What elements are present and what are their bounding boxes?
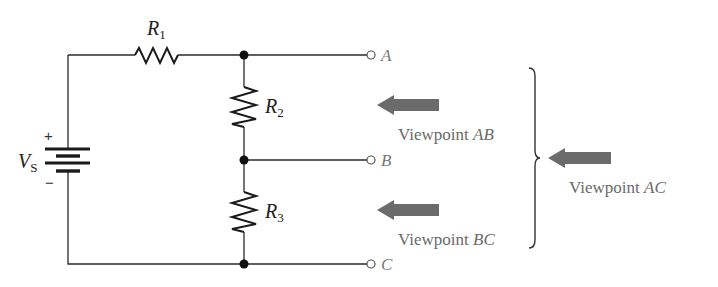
minus-sign: − <box>45 174 54 191</box>
junction-dot <box>240 260 249 269</box>
junction-dot <box>240 156 249 165</box>
terminal-c: C <box>367 255 393 274</box>
battery-vs: + − VS <box>18 127 90 191</box>
r1-label: R1 <box>146 17 166 42</box>
circuit-diagram: + − VS R1 R2 R3 A B C Viewpoint AB <box>0 0 718 287</box>
arrow-left-icon <box>377 95 439 115</box>
terminal-a-label: A <box>380 46 392 65</box>
viewpoint-ab: Viewpoint AB <box>377 95 494 144</box>
resistor-r3: R3 <box>232 192 284 232</box>
terminal-a: A <box>367 46 392 65</box>
terminal-c-node <box>367 260 375 268</box>
source-label: VS <box>18 150 37 175</box>
terminal-b-node <box>367 156 375 164</box>
arrow-left-icon <box>548 148 611 168</box>
terminal-b: B <box>367 151 392 170</box>
terminal-c-label: C <box>381 255 393 274</box>
viewpoint-bc: Viewpoint BC <box>377 200 495 249</box>
r3-label: R3 <box>264 200 284 225</box>
resistor-r1: R1 <box>135 17 178 63</box>
wires <box>68 55 371 264</box>
plus-sign: + <box>44 127 53 144</box>
curly-brace <box>529 68 540 248</box>
junction-dot <box>240 51 249 60</box>
viewpoint-ab-label: Viewpoint AB <box>398 125 494 144</box>
arrow-left-icon <box>377 200 439 220</box>
terminal-b-label: B <box>381 151 392 170</box>
terminal-a-node <box>367 51 375 59</box>
r2-label: R2 <box>264 95 284 120</box>
viewpoint-ac: Viewpoint AC <box>548 148 666 197</box>
resistor-r2: R2 <box>232 87 284 127</box>
viewpoint-bc-label: Viewpoint BC <box>398 230 495 249</box>
viewpoint-ac-label: Viewpoint AC <box>569 178 666 197</box>
